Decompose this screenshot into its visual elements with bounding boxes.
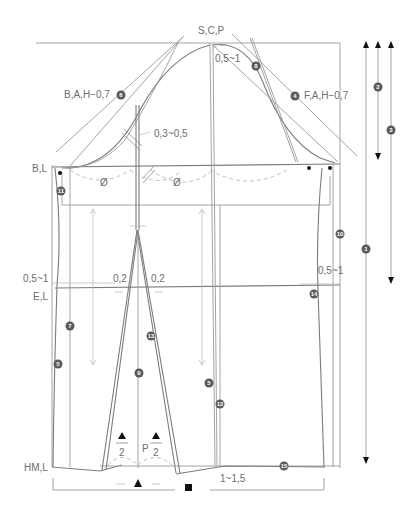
bust-dot-right-a (307, 166, 311, 170)
arrow-3-top (388, 41, 394, 48)
step-marker-5a: 5 (54, 360, 63, 369)
svg-text:10: 10 (337, 231, 344, 237)
square-icon (185, 484, 192, 491)
svg-text:12: 12 (217, 401, 224, 407)
step-marker-4: 4 (291, 92, 300, 101)
armhole-offset-label: 0,3~0,5 (154, 128, 188, 139)
bah-label: B,A,H−0,7 (64, 89, 110, 100)
arc-front-2 (210, 168, 290, 181)
arc-hem-left (108, 458, 138, 466)
hem-line-label: HM,L (24, 462, 48, 473)
triangle-right-icon (152, 432, 160, 439)
step-marker-12: 12 (216, 400, 225, 409)
arrow-2-top (375, 41, 381, 48)
waist-offset-right-label: 0,5~1 (318, 265, 344, 276)
fah-label: F,A,H−0,7 (304, 90, 349, 101)
step-marker-6: 6 (117, 91, 126, 100)
left-side-seam (53, 168, 59, 467)
half-right-label: 2 (153, 447, 159, 458)
step-marker-7: 7 (66, 322, 75, 331)
phi-left-label: Ø (100, 177, 108, 188)
front-armhole-guide (252, 38, 298, 162)
back-shoulder-line (70, 38, 182, 166)
step-marker-10: 10 (336, 230, 345, 239)
triangle-center-icon (134, 479, 142, 487)
dart-line-left-a (102, 230, 137, 470)
scp-label: S,C,P (198, 25, 224, 36)
phi-right-label: Ø (173, 177, 181, 188)
svg-text:11: 11 (58, 188, 65, 194)
center-front-line-12 (210, 43, 215, 466)
elastic-line-label: E,L (33, 291, 48, 302)
arrow-2-bottom (375, 153, 381, 160)
hem-offset-label: 1~1,5 (220, 473, 246, 484)
dart-line-right-b (138, 230, 180, 473)
step-marker-11: 11 (57, 187, 66, 196)
step-marker-13: 13 (147, 332, 156, 341)
svg-text:13: 13 (148, 333, 155, 339)
arrow-3-bottom (388, 277, 394, 284)
bust-line-label: B,L (32, 163, 47, 174)
step-marker-1: 1 (362, 245, 371, 254)
arc-hem-right (138, 458, 172, 466)
waist-offset-left-label: 0,5~1 (23, 273, 49, 284)
pattern-diagram: S,C,P 0,5~1 B,A,H−0,7 F,A,H−0,7 0,3~0,5 … (0, 0, 414, 516)
arrow-1-top (363, 41, 369, 48)
hem-line-right (176, 466, 325, 474)
svg-text:15: 15 (281, 463, 288, 469)
bust-dot-right-b (328, 166, 332, 170)
scp-offset-label: 0,5~1 (215, 53, 241, 64)
front-side-seam (318, 168, 325, 467)
step-marker-9: 9 (135, 369, 144, 378)
notch-leader (140, 132, 150, 135)
dart-right-label: 0,2 (151, 273, 165, 284)
step-marker-2: 2 (374, 83, 383, 92)
triangle-left-icon (118, 432, 126, 439)
step-marker-8: 8 (252, 62, 261, 71)
bust-line (52, 164, 340, 167)
elastic-line (55, 285, 340, 288)
step-marker-3: 3 (387, 126, 396, 135)
pleat-p-label: P (142, 443, 149, 454)
svg-text:14: 14 (311, 291, 318, 297)
step-marker-14: 14 (310, 290, 319, 299)
step-marker-5b: 5 (205, 379, 214, 388)
step-marker-15: 15 (280, 462, 289, 471)
half-left-label: 2 (119, 447, 125, 458)
bust-dot-left (58, 171, 62, 175)
front-armhole-guide-b (250, 38, 296, 162)
dart-left-label: 0,2 (113, 273, 127, 284)
arrow-1-bottom (363, 457, 369, 464)
